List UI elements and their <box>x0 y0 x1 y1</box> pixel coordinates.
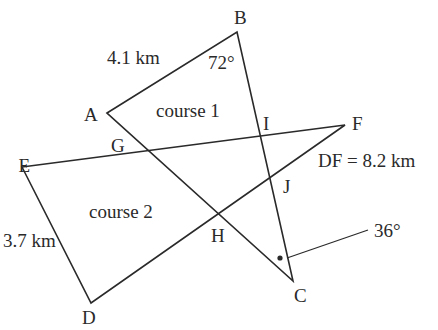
label-b: B <box>234 7 247 28</box>
label-h: H <box>211 225 225 246</box>
angle-c-label: 36° <box>374 220 401 241</box>
label-i: I <box>263 113 269 134</box>
label-d: D <box>82 307 96 328</box>
triangle-abc <box>107 32 293 281</box>
length-de-label: 3.7 km <box>3 230 56 251</box>
region-course-2-label: course 2 <box>89 201 153 222</box>
label-a: A <box>84 104 98 125</box>
triangle-efd <box>22 125 345 303</box>
angle-c-marker-dot <box>277 255 282 260</box>
geometry-diagram: B A G I F E J H C D course 1 course 2 4.… <box>0 0 438 330</box>
length-ab-label: 4.1 km <box>107 47 160 68</box>
angle-b-label: 72° <box>208 52 235 73</box>
label-f: F <box>352 113 363 134</box>
region-course-1-label: course 1 <box>156 100 220 121</box>
label-g: G <box>111 135 125 156</box>
label-j: J <box>283 176 290 197</box>
label-e: E <box>18 155 30 176</box>
angle-c-leader-line <box>287 230 368 258</box>
label-c: C <box>294 285 307 306</box>
length-df-label: DF = 8.2 km <box>318 150 416 171</box>
